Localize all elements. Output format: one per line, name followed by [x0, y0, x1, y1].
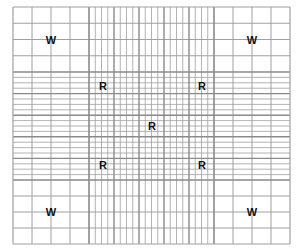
- w-label-bottom-left: W: [46, 206, 57, 218]
- w-label-bottom-right: W: [247, 206, 258, 218]
- r-label-bottom-right: R: [198, 159, 206, 171]
- r-label-bottom-left: R: [99, 159, 107, 171]
- hemocytometer-grid: W W W W R R R R R: [0, 0, 301, 251]
- r-label-top-right: R: [198, 80, 206, 92]
- w-label-top-right: W: [247, 34, 258, 46]
- r-label-center: R: [148, 120, 156, 132]
- r-label-top-left: R: [99, 80, 107, 92]
- w-label-top-left: W: [46, 34, 57, 46]
